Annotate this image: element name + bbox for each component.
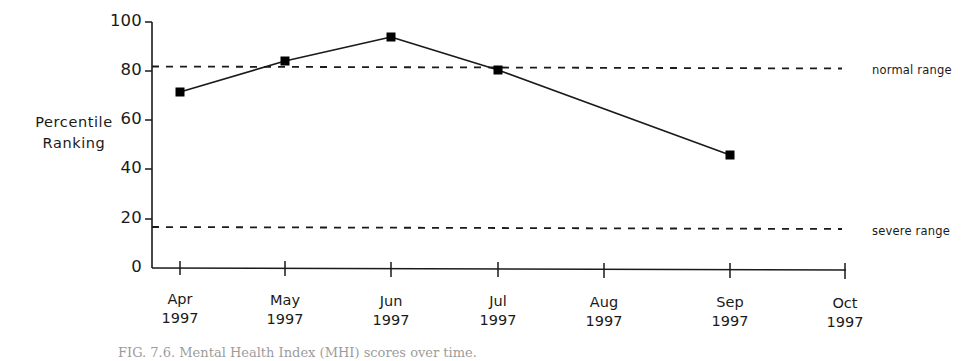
x-tick-label-jun-month: Jun [351,292,431,311]
y-tick-label-20: 20 [98,208,142,227]
x-tick-label-apr-year: 1997 [140,309,220,328]
x-tick-label-jul-year: 1997 [458,311,538,330]
y-tick-label-100: 100 [98,11,142,30]
data-point-apr-1997 [176,88,185,97]
x-tick-label-may-month: May [245,291,325,310]
x-tick-label-jun: Jun 1997 [351,292,431,329]
data-point-jul-1997 [494,66,503,75]
normal-range-label: normal range [872,63,952,77]
x-tick-label-aug: Aug 1997 [564,293,644,330]
x-tick-label-jul: Jul 1997 [458,292,538,329]
data-point-may-1997 [281,57,290,66]
x-tick-label-aug-year: 1997 [564,312,644,331]
x-tick-label-oct: Oct 1997 [805,294,885,331]
y-tick-label-60: 60 [98,109,142,128]
severe-range-label: severe range [872,224,950,238]
x-tick-label-apr-month: Apr [140,290,220,309]
y-tick-label-80: 80 [98,60,142,79]
x-tick-label-sep: Sep 1997 [690,293,770,330]
percentile-ranking-line-chart: Percentile Ranking 100 80 60 40 20 0 [0,0,974,361]
x-tick-label-may: May 1997 [245,291,325,328]
x-tick-label-sep-year: 1997 [690,312,770,331]
x-axis-line [152,268,846,270]
x-tick-label-sep-month: Sep [690,293,770,312]
y-tick-label-40: 40 [98,158,142,177]
figure-caption: FIG. 7.6. Mental Health Index (MHI) scor… [118,345,477,360]
x-tick-label-apr: Apr 1997 [140,290,220,327]
x-tick-label-aug-month: Aug [564,293,644,312]
x-tick-label-oct-year: 1997 [805,313,885,332]
data-point-jun-1997 [387,33,396,42]
x-tick-label-jul-month: Jul [458,292,538,311]
data-line-percentile-ranking [180,37,730,155]
severe-range-reference-line [152,227,842,229]
x-tick-label-jun-year: 1997 [351,311,431,330]
y-axis-title-line-2: Ranking [18,133,130,154]
y-tick-label-0: 0 [98,257,142,276]
data-point-sep-1997 [726,151,735,160]
x-tick-label-oct-month: Oct [805,294,885,313]
x-tick-label-may-year: 1997 [245,310,325,329]
